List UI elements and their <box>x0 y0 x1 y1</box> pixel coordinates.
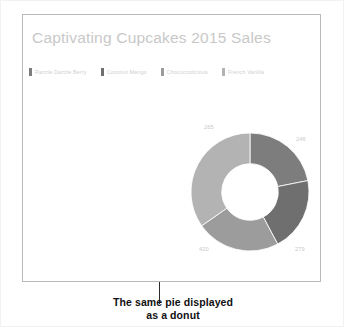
legend-item-coconut-mango[interactable]: Coconut Mango <box>101 68 147 76</box>
legend-swatch-icon <box>29 68 32 76</box>
donut-chart[interactable] <box>191 133 309 251</box>
legend-item-french-vanilla[interactable]: French Vanilla <box>222 68 264 76</box>
chart-object-frame[interactable]: Captivating Cupcakes 2015 Sales Razzle D… <box>22 14 321 282</box>
legend-swatch-icon <box>222 68 225 76</box>
legend-item-label: Razzle Dazzle Berry <box>35 68 87 76</box>
caption-line-1: The same pie displayed <box>0 296 346 309</box>
legend-item-label: Chococcolicious <box>167 68 208 76</box>
chart-title: Captivating Cupcakes 2015 Sales <box>32 29 271 47</box>
plot-area: 265 246 279 420 <box>178 120 318 270</box>
legend-item-label: Coconut Mango <box>107 68 147 76</box>
slice-data-label: 279 <box>295 246 305 252</box>
figure-caption: The same pie displayed as a donut <box>0 296 346 322</box>
legend-item-label: French Vanilla <box>228 68 264 76</box>
donut-svg <box>191 133 309 251</box>
slice-data-label: 420 <box>199 246 209 252</box>
donut-slice[interactable] <box>191 133 250 226</box>
legend-swatch-icon <box>101 68 104 76</box>
legend-item-chococcolicious[interactable]: Chococcolicious <box>161 68 208 76</box>
chart-legend: Razzle Dazzle Berry Coconut Mango Chococ… <box>29 65 317 79</box>
figure-container: Captivating Cupcakes 2015 Sales Razzle D… <box>0 0 346 329</box>
caption-line-2: as a donut <box>0 309 346 322</box>
slice-data-label: 265 <box>204 124 214 130</box>
legend-swatch-icon <box>161 68 164 76</box>
slice-data-label: 246 <box>296 136 306 142</box>
legend-item-razzle-dazzle-berry[interactable]: Razzle Dazzle Berry <box>29 68 87 76</box>
